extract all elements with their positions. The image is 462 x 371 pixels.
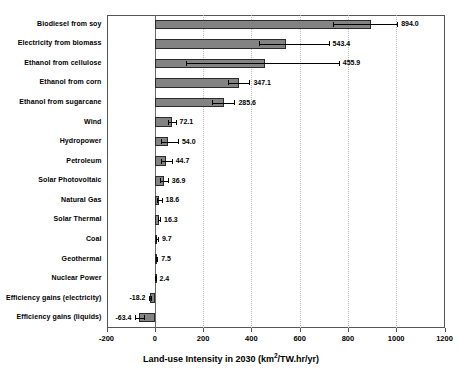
- error-cap-low-8: [160, 178, 161, 183]
- error-cap-low-10: [158, 217, 159, 222]
- category-label-1: Electricity from biomass: [0, 39, 102, 47]
- value-label-1: 543.4: [333, 40, 351, 48]
- error-bar-8: [160, 181, 168, 182]
- x-axis-title: Land-use Intensity in 2030 (km2/TW.hr/yr…: [0, 350, 462, 365]
- error-cap-high-4: [234, 100, 235, 105]
- error-cap-low-7: [161, 159, 162, 164]
- value-label-2: 455.9: [343, 59, 361, 67]
- value-label-8: 36.9: [172, 177, 186, 185]
- error-cap-high-11: [158, 237, 159, 242]
- error-bar-2: [186, 63, 339, 64]
- error-bar-15: [135, 318, 143, 319]
- error-bar-7: [161, 161, 172, 162]
- error-cap-high-10: [160, 217, 161, 222]
- value-label-10: 16.3: [164, 216, 178, 224]
- category-label-10: Solar Thermal: [0, 215, 102, 223]
- x-tick-0: [155, 328, 156, 332]
- error-cap-high-3: [249, 80, 250, 85]
- error-cap-high-2: [339, 61, 340, 66]
- category-label-12: Geothermal: [0, 255, 102, 263]
- value-label-4: 285.6: [238, 99, 256, 107]
- gridline-600: [300, 15, 301, 328]
- value-label-11: 9.7: [162, 235, 172, 243]
- error-cap-high-0: [397, 22, 398, 27]
- category-label-0: Biodiesel from soy: [0, 20, 102, 28]
- category-label-7: Petroleum: [0, 157, 102, 165]
- land-use-intensity-bar-chart: -200020040060080010001200Biodiesel from …: [0, 0, 462, 371]
- value-label-7: 44.7: [176, 157, 190, 165]
- error-cap-low-6: [161, 139, 162, 144]
- x-tick-200: [203, 328, 204, 332]
- error-cap-low-3: [228, 80, 229, 85]
- x-tick--200: [107, 328, 108, 332]
- gridline-1000: [396, 15, 397, 328]
- error-cap-high-12: [157, 257, 158, 262]
- value-label-3: 347.1: [253, 79, 271, 87]
- error-bar-5: [168, 122, 175, 123]
- error-cap-high-8: [168, 178, 169, 183]
- category-label-9: Natural Gas: [0, 196, 102, 204]
- x-tick-label-1200: 1200: [415, 334, 462, 343]
- error-cap-low-2: [186, 61, 187, 66]
- value-label-9: 18.6: [166, 196, 180, 204]
- x-tick-600: [300, 328, 301, 332]
- category-label-13: Nuclear Power: [0, 274, 102, 282]
- error-cap-high-6: [178, 139, 179, 144]
- value-label-0: 894.0: [401, 20, 419, 28]
- category-label-11: Coal: [0, 235, 102, 243]
- value-label-5: 72.1: [180, 118, 194, 126]
- error-cap-high-9: [162, 198, 163, 203]
- error-cap-low-1: [259, 41, 260, 46]
- value-label-12: 7.5: [161, 255, 171, 263]
- x-tick-1200: [445, 328, 446, 332]
- value-label-15: -63.4: [71, 314, 131, 322]
- bar-3: [155, 78, 239, 88]
- x-tick-800: [348, 328, 349, 332]
- error-cap-low-15: [135, 315, 136, 320]
- value-label-6: 54.0: [182, 138, 196, 146]
- error-cap-high-14: [151, 296, 152, 301]
- category-label-6: Hydropower: [0, 137, 102, 145]
- category-label-5: Wind: [0, 118, 102, 126]
- error-cap-low-4: [212, 100, 213, 105]
- error-cap-high-1: [329, 41, 330, 46]
- x-tick-400: [251, 328, 252, 332]
- x-tick-1000: [396, 328, 397, 332]
- category-label-3: Ethanol from corn: [0, 78, 102, 86]
- value-label-13: 2.4: [160, 275, 170, 283]
- x-axis-title-suffix: /TW.hr/yr): [278, 354, 320, 364]
- category-label-2: Ethanol from cellulose: [0, 59, 102, 67]
- x-axis-title-prefix: Land-use Intensity in 2030 (km: [143, 354, 274, 364]
- error-cap-low-9: [157, 198, 158, 203]
- error-cap-low-5: [168, 120, 169, 125]
- category-label-4: Ethanol from sugarcane: [0, 98, 102, 106]
- error-bar-3: [228, 83, 249, 84]
- error-cap-low-0: [333, 22, 334, 27]
- value-label-14: -18.2: [85, 294, 145, 302]
- error-cap-low-14: [149, 296, 150, 301]
- error-cap-high-15: [144, 315, 145, 320]
- error-bar-0: [333, 24, 397, 25]
- error-bar-4: [212, 103, 234, 104]
- category-label-8: Solar Photovoltaic: [0, 176, 102, 184]
- error-bar-1: [259, 44, 329, 45]
- error-bar-6: [161, 142, 178, 143]
- error-cap-high-5: [176, 120, 177, 125]
- error-cap-high-13: [156, 276, 157, 281]
- error-cap-high-7: [172, 159, 173, 164]
